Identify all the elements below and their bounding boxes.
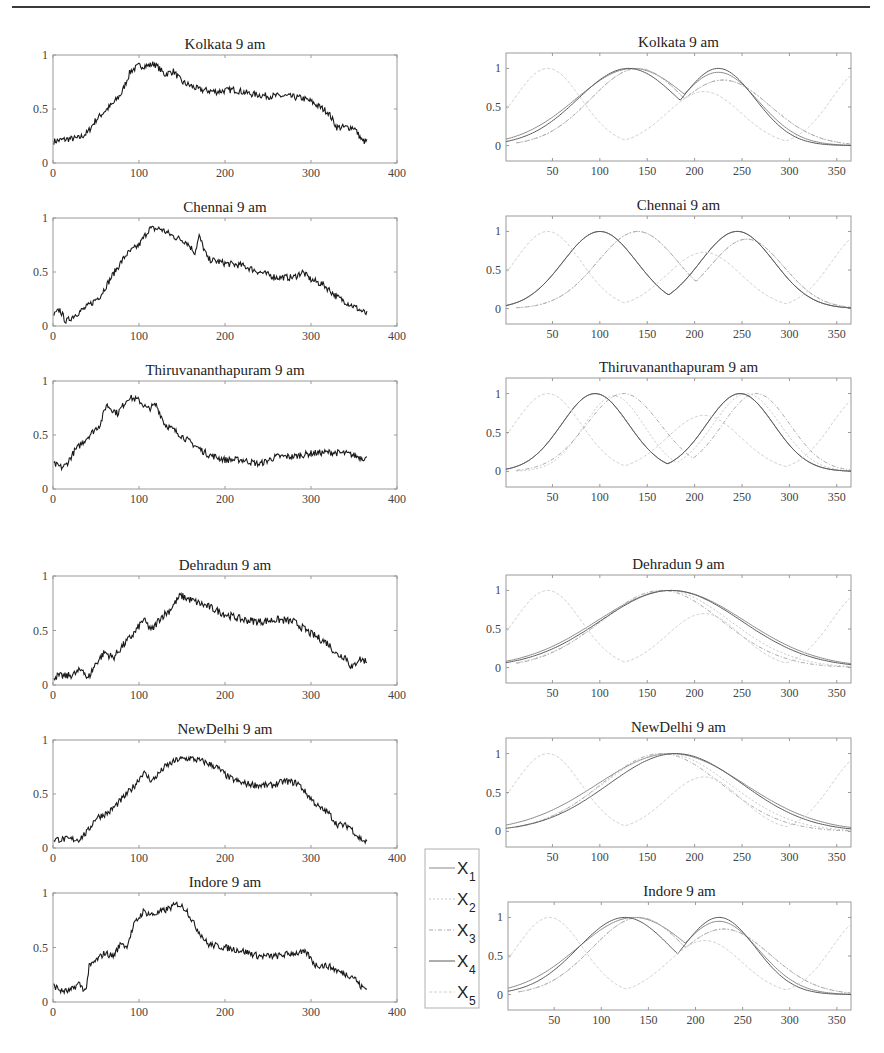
y-tick-label: 0.5 (33, 428, 48, 442)
x-tick-label: 250 (733, 164, 751, 178)
subplot-right-kolkata-9-am: Kolkata 9 am5010015020025030035000.51 (486, 34, 851, 178)
basis-line-x1 (508, 917, 851, 994)
subplot-left-chennai-9-am: Chennai 9 am010020030040000.51 (33, 199, 406, 343)
x-tick-label: 0 (50, 492, 56, 506)
basis-line-x4 (506, 590, 851, 664)
basis-line-x4 (506, 394, 851, 472)
x-tick-label: 50 (546, 850, 558, 864)
y-tick-label: 0.5 (486, 786, 501, 800)
x-tick-label: 200 (216, 166, 234, 180)
x-tick-label: 250 (733, 686, 751, 700)
axes-frame (508, 902, 851, 1010)
y-tick-label: 0 (42, 841, 48, 855)
x-tick-label: 300 (302, 329, 320, 343)
y-tick-label: 1 (42, 569, 48, 583)
x-tick-label: 300 (302, 1005, 320, 1019)
x-tick-label: 400 (388, 166, 406, 180)
axes-frame (506, 378, 851, 487)
x-tick-label: 100 (130, 329, 148, 343)
x-tick-label: 350 (828, 1013, 846, 1027)
basis-line-x3 (516, 394, 850, 471)
x-tick-label: 50 (546, 164, 558, 178)
axes-frame (53, 218, 397, 326)
subplot-left-indore-9-am: Indore 9 am010020030040000.51 (33, 874, 406, 1019)
x-tick-label: 200 (687, 1013, 705, 1027)
basis-line-x5 (508, 917, 851, 989)
y-tick-label: 1 (495, 224, 501, 238)
y-tick-label: 1 (42, 211, 48, 225)
y-tick-label: 0.5 (486, 426, 501, 440)
x-tick-label: 100 (130, 166, 148, 180)
legend-subscript: 4 (469, 963, 476, 977)
x-tick-label: 300 (780, 686, 798, 700)
axes-frame (53, 381, 397, 489)
x-tick-label: 100 (592, 1013, 610, 1027)
x-tick-label: 200 (686, 686, 704, 700)
subplot-right-dehradun-9-am: Dehradun 9 am5010015020025030035000.51 (486, 556, 851, 700)
y-tick-label: 0.5 (33, 265, 48, 279)
x-tick-label: 50 (546, 327, 558, 341)
subplot-title: Dehradun 9 am (632, 556, 725, 572)
y-tick-label: 0 (497, 988, 503, 1002)
y-tick-label: 0.5 (33, 941, 48, 955)
y-tick-label: 0.5 (486, 622, 501, 636)
subplot-title: Dehradun 9 am (179, 557, 272, 573)
x-tick-label: 0 (50, 1005, 56, 1019)
x-tick-label: 200 (686, 164, 704, 178)
y-tick-label: 0.5 (33, 787, 48, 801)
basis-line-x4 (506, 754, 851, 829)
x-tick-label: 0 (50, 329, 56, 343)
y-tick-label: 1 (495, 61, 501, 75)
x-tick-label: 200 (216, 1005, 234, 1019)
subplot-title: Thiruvananthapuram 9 am (145, 362, 304, 378)
y-tick-label: 0 (42, 995, 48, 1009)
y-tick-label: 0.5 (488, 949, 503, 963)
y-tick-label: 1 (495, 583, 501, 597)
x-tick-label: 200 (216, 492, 234, 506)
x-tick-label: 250 (734, 1013, 752, 1027)
x-tick-label: 350 (828, 164, 846, 178)
y-tick-label: 1 (42, 733, 48, 747)
subplot-left-dehradun-9-am: Dehradun 9 am010020030040000.51 (33, 557, 406, 702)
subplot-right-thiruvananthapuram-9-am: Thiruvananthapuram 9 am50100150200250300… (486, 359, 851, 504)
legend-label: X (457, 983, 468, 1002)
basis-line-x3 (516, 231, 850, 307)
legend-label: X (457, 921, 468, 940)
legend-subscript: 3 (469, 932, 476, 946)
subplot-title: Chennai 9 am (637, 197, 721, 213)
basis-line-x1 (506, 231, 851, 308)
x-tick-label: 300 (780, 850, 798, 864)
x-tick-label: 100 (130, 851, 148, 865)
legend-label: X (457, 859, 468, 878)
x-tick-label: 100 (591, 164, 609, 178)
x-tick-label: 50 (546, 686, 558, 700)
y-tick-label: 0.5 (33, 624, 48, 638)
subplot-title: NewDelhi 9 am (631, 719, 726, 735)
x-tick-label: 300 (302, 851, 320, 865)
x-tick-label: 100 (591, 327, 609, 341)
y-tick-label: 0 (495, 464, 501, 478)
x-tick-label: 200 (686, 850, 704, 864)
x-tick-label: 100 (591, 850, 609, 864)
x-tick-label: 300 (780, 327, 798, 341)
x-tick-label: 300 (780, 490, 798, 504)
x-tick-label: 150 (638, 490, 656, 504)
y-tick-label: 0 (42, 319, 48, 333)
x-tick-label: 350 (828, 490, 846, 504)
x-tick-label: 300 (302, 492, 320, 506)
x-tick-label: 400 (388, 1005, 406, 1019)
x-tick-label: 150 (639, 1013, 657, 1027)
x-tick-label: 250 (733, 327, 751, 341)
subplot-title: Chennai 9 am (183, 199, 267, 215)
x-tick-label: 300 (302, 166, 320, 180)
basis-line-x2 (516, 231, 850, 307)
x-tick-label: 100 (130, 492, 148, 506)
y-tick-label: 0 (42, 482, 48, 496)
axes-frame (53, 576, 397, 685)
axes-frame (53, 55, 397, 163)
x-tick-label: 0 (50, 688, 56, 702)
basis-line-x2 (516, 754, 850, 831)
x-tick-label: 300 (781, 1013, 799, 1027)
subplot-right-indore-9-am: Indore 9 am5010015020025030035000.51 (488, 883, 851, 1027)
y-tick-label: 1 (495, 387, 501, 401)
